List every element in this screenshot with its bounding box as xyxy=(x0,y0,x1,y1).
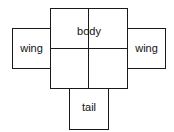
diagram: wing wing tail body xyxy=(0,0,174,132)
right-wing-label: wing xyxy=(127,42,166,54)
body-label: body xyxy=(60,25,118,37)
body-horizontal-divider xyxy=(50,48,128,49)
tail-label: tail xyxy=(69,101,109,113)
left-wing-label: wing xyxy=(12,42,51,54)
